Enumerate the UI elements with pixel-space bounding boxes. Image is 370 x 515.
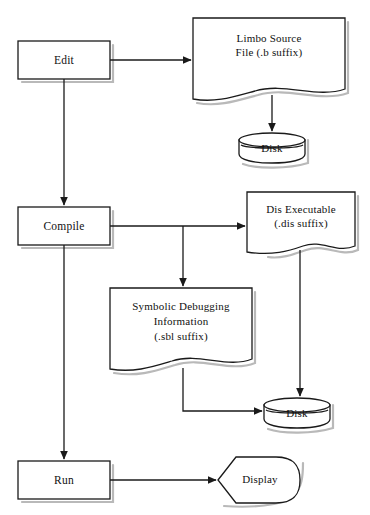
flowchart-diagram: Edit Limbo Source File (.b suffix) Disk … [0,0,370,515]
node-compile-shape[interactable] [18,207,110,245]
node-source-shape[interactable] [193,18,345,100]
node-dis-shape[interactable] [247,192,355,253]
flowchart-canvas [0,0,370,515]
shape-shadows [22,22,358,507]
node-display-shape[interactable] [218,457,300,503]
node-disk-top-shape[interactable] [239,133,305,163]
node-disk-bottom-shape[interactable] [264,398,330,428]
node-edit-shape[interactable] [18,41,110,79]
node-sbl-shape[interactable] [110,288,252,370]
edge-sbl-to-disk [183,368,262,411]
node-run-shape[interactable] [18,461,110,499]
